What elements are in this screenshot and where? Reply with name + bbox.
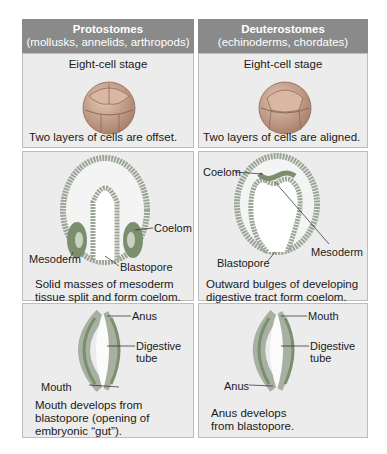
deuterostome-gut-panel: Mouth Digestive tube Anus Anus develops …: [198, 303, 368, 438]
coelom-label: Coelom: [203, 166, 241, 178]
digestive-tube-label: Digestive tube: [310, 340, 355, 364]
deuterostomes-title: Deuterostomes: [198, 19, 368, 36]
protostome-gut-panel: Anus Digestive tube Mouth Mouth develops…: [22, 303, 194, 438]
mesoderm-label: Mesoderm: [29, 253, 81, 265]
cleavage-caption: Two layers of cells are aligned.: [203, 131, 360, 144]
schizocoelous-coelom-diagram: [23, 152, 195, 262]
mesoderm-label: Mesoderm: [311, 246, 363, 258]
blastopore-label: Blastopore: [120, 261, 173, 273]
gut-caption: Anus develops from blastopore.: [211, 407, 294, 433]
coelom-caption: Outward bulges of developing digestive t…: [206, 278, 358, 304]
anus-label: Anus: [132, 310, 157, 322]
stage-label: Eight-cell stage: [23, 58, 193, 70]
cleavage-caption: Two layers of cells are offset.: [29, 131, 177, 144]
digestive-tube-label: Digestive tube: [136, 340, 181, 364]
protostomes-subtitle: (mollusks, annelids, arthropods): [22, 36, 194, 49]
protostome-cleavage-panel: Eight-cell stage Two layers of cells are…: [22, 53, 194, 148]
eight-cell-embryo-offset: [79, 76, 139, 136]
anus-label: Anus: [224, 380, 249, 392]
protostomes-title: Protostomes: [22, 19, 194, 36]
eight-cell-embryo-aligned: [255, 76, 315, 136]
deuterostomes-header: Deuterostomes (echinoderms, chordates): [198, 19, 368, 53]
coelom-caption: Solid masses of mesoderm tissue split an…: [35, 278, 181, 304]
mouth-label: Mouth: [308, 310, 339, 322]
deuterostomes-subtitle: (echinoderms, chordates): [198, 36, 368, 49]
deuterostome-coelom-panel: Coelom Mesoderm Blastopore Outward bulge…: [198, 151, 368, 301]
coelom-label: Coelom: [154, 222, 192, 234]
deuterostome-cleavage-panel: Eight-cell stage Two layers of cells are…: [198, 53, 368, 148]
stage-label: Eight-cell stage: [199, 58, 367, 70]
protostome-coelom-panel: Coelom Mesoderm Blastopore Solid masses …: [22, 151, 194, 301]
gut-caption: Mouth develops from blastopore (opening …: [35, 399, 149, 438]
mouth-label: Mouth: [41, 381, 72, 393]
blastopore-label: Blastopore: [217, 257, 270, 269]
protostomes-header: Protostomes (mollusks, annelids, arthrop…: [22, 19, 194, 53]
